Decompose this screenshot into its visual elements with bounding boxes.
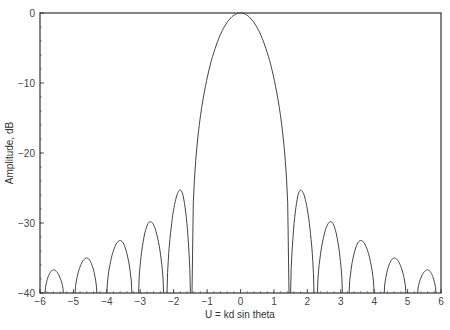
y-tick-label: 0 xyxy=(29,8,35,19)
x-tick-label: 5 xyxy=(405,296,411,307)
y-tick-label: −40 xyxy=(18,288,35,299)
x-tick-label: 0 xyxy=(238,296,244,307)
x-tick-label: 1 xyxy=(271,296,277,307)
x-tick-label: 2 xyxy=(305,296,311,307)
y-tick-label: −20 xyxy=(18,148,35,159)
y-tick-label: −30 xyxy=(18,218,35,229)
pattern-curve xyxy=(45,13,436,293)
x-tick-label: −2 xyxy=(168,296,180,307)
y-axis-title: Amplitude, dB xyxy=(4,122,15,185)
plot-frame xyxy=(40,13,441,293)
x-tick-label: 3 xyxy=(338,296,344,307)
x-tick-label: −1 xyxy=(201,296,213,307)
y-tick-label: −10 xyxy=(18,78,35,89)
x-tick-label: −3 xyxy=(135,296,147,307)
x-tick-label: 4 xyxy=(371,296,377,307)
chart: −6−5−4−3−2−101234560−10−20−30−40 U = kd … xyxy=(0,0,450,330)
x-tick-label: −6 xyxy=(34,296,46,307)
x-axis-title: U = kd sin theta xyxy=(205,309,275,320)
x-tick-label: 6 xyxy=(438,296,444,307)
x-tick-label: −5 xyxy=(68,296,80,307)
x-tick-label: −4 xyxy=(101,296,113,307)
